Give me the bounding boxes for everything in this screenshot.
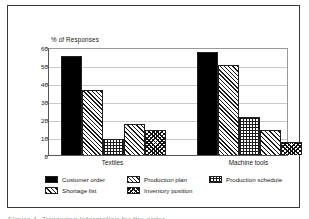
plot-area [48, 48, 288, 156]
figure-frame: % of Responses 0102030405060 TextilesMac… [7, 5, 300, 208]
bar-inventory-position [281, 142, 302, 155]
bar-group-textiles [61, 49, 166, 155]
legend-swatch-icon [45, 187, 58, 194]
bar-shortage-list [124, 124, 145, 155]
y-axis-tick-label: 40 [14, 81, 48, 88]
x-axis-tick-label: Machine tools [229, 159, 268, 166]
figure-caption: Figure 1. Triggering information for the… [8, 215, 165, 219]
bar-customer-order [197, 52, 218, 155]
legend-swatch-icon [127, 187, 140, 194]
y-axis-tick-labels: 0102030405060 [8, 48, 48, 156]
x-axis-tick-label: Textiles [102, 159, 123, 166]
legend-label: Customer order [62, 176, 105, 183]
bar-inventory-position [145, 130, 166, 155]
bar-customer-order [61, 56, 82, 155]
y-axis-tick-label: 50 [14, 63, 48, 70]
y-axis-tick-label: 0 [14, 153, 48, 160]
legend-item-inventory-position[interactable]: Inventory position [127, 187, 193, 194]
legend-item-production-plan[interactable]: Production plan [127, 176, 187, 183]
bar-production-schedule [239, 117, 260, 155]
legend-label: Inventory position [144, 187, 193, 194]
legend-label: Production plan [144, 176, 187, 183]
legend-item-customer-order[interactable]: Customer order [45, 176, 105, 183]
y-axis-tick-label: 10 [14, 135, 48, 142]
legend-swatch-icon [45, 176, 58, 183]
y-axis-tick-label: 30 [14, 99, 48, 106]
bar-production-schedule [103, 139, 124, 155]
legend-label: Production schedule [226, 176, 282, 183]
y-axis-tick-label: 20 [14, 117, 48, 124]
bar-production-plan [218, 65, 239, 155]
bar-shortage-list [260, 130, 281, 155]
legend-label: Shortage list [62, 187, 96, 194]
bar-production-plan [82, 90, 103, 155]
figure-caption-strip: Figure 1. Triggering information for the… [8, 211, 300, 219]
bar-group-machine-tools [197, 49, 302, 155]
y-axis-title: % of Responses [51, 36, 99, 43]
legend-item-production-schedule[interactable]: Production schedule [209, 176, 282, 183]
y-axis-tick-label: 60 [14, 45, 48, 52]
legend-swatch-icon [209, 176, 222, 183]
legend-item-shortage-list[interactable]: Shortage list [45, 187, 96, 194]
legend-swatch-icon [127, 176, 140, 183]
chart-legend: Customer orderProduction planProduction … [45, 176, 295, 200]
